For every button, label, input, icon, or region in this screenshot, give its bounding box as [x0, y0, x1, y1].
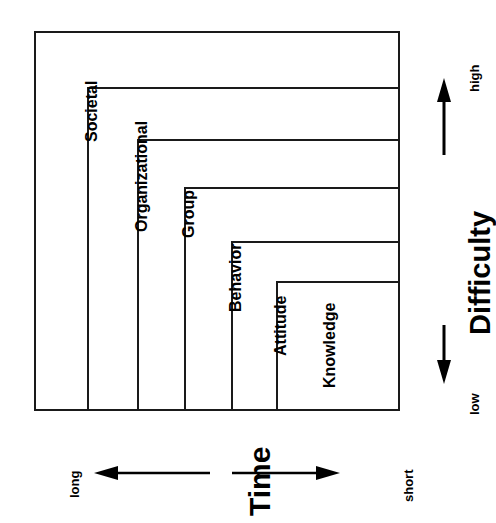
time-axis-arrow-icon — [30, 430, 430, 523]
time-long-label: long — [68, 471, 81, 498]
difficulty-axis: Difficulty high low — [410, 40, 478, 420]
level-label-societal: Societal — [84, 81, 100, 142]
level-label-attitude: Attitude — [273, 296, 289, 356]
time-axis: Time long short — [30, 430, 430, 523]
level-label-knowledge: Knowledge — [322, 303, 338, 388]
level-label-behavior: Behavior — [228, 244, 244, 312]
level-box-knowledge — [276, 281, 400, 411]
level-label-organizational: Organizational — [134, 121, 150, 232]
difficulty-low-label: low — [468, 393, 481, 415]
time-axis-title: Time — [245, 447, 275, 516]
level-label-group: Group — [181, 190, 197, 238]
difficulty-axis-title: Difficulty — [466, 211, 495, 335]
difficulty-high-label: high — [468, 65, 481, 92]
time-short-label: short — [402, 470, 415, 503]
